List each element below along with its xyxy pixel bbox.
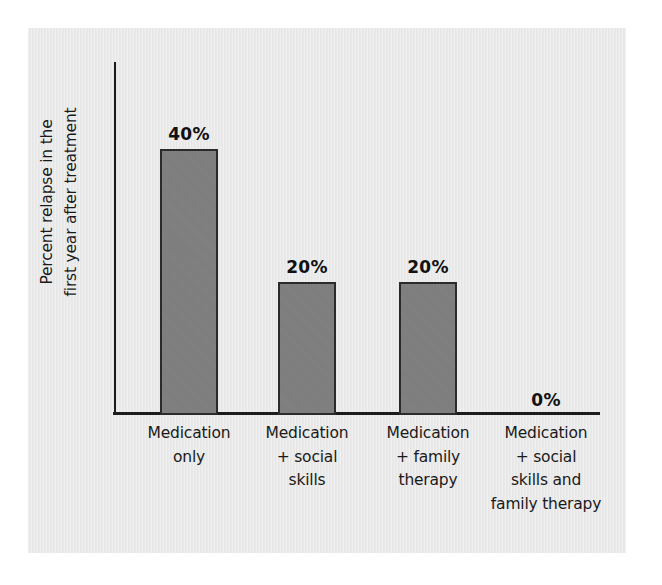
bar-rect[interactable] [278,282,336,415]
category-label-line: skills and [480,469,612,493]
category-label-line: Medication [480,422,612,446]
bar-value-label: 40% [129,124,249,144]
bar-value-label: 0% [486,390,606,410]
bar-rect[interactable] [399,282,457,415]
figure-root: Percent relapse in the first year after … [0,0,662,585]
category-label-line: Medication [123,422,255,446]
y-axis-title: Percent relapse in the first year after … [35,67,83,337]
category-label-line: skills [241,469,373,493]
category-label-line: Medication [241,422,373,446]
category-label-medication-only: Medication only [123,422,255,469]
y-axis-title-line-2: first year after treatment [59,67,83,337]
bar-group-medication-social-skills: 20% [247,257,367,415]
bar-group-medication-family-therapy: 20% [368,257,488,415]
category-label-line: Medication [362,422,494,446]
plot-area: Percent relapse in the first year after … [28,28,626,553]
category-label-line: family therapy [480,493,612,517]
bar-rect[interactable] [160,149,218,415]
category-label-medication-social-skills-and-family-therapy: Medication + social skills and family th… [480,422,612,516]
y-axis-line [114,62,116,414]
category-label-line: + social [480,446,612,470]
category-label-line: only [123,446,255,470]
category-label-medication-family-therapy: Medication + family therapy [362,422,494,493]
bar-value-label: 20% [368,257,488,277]
bar-group-medication-only: 40% [129,124,249,415]
bar-value-label: 20% [247,257,367,277]
category-label-line: therapy [362,469,494,493]
y-axis-title-line-1: Percent relapse in the [35,67,59,337]
category-label-line: + social [241,446,373,470]
bar-group-medication-social-skills-and-family-therapy: 0% [486,390,606,415]
category-label-line: + family [362,446,494,470]
category-label-medication-social-skills: Medication + social skills [241,422,373,493]
chart-panel: Percent relapse in the first year after … [28,28,626,553]
